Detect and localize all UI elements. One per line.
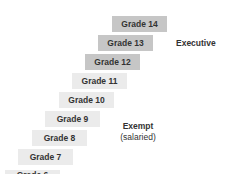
exempt-band-sublabel: (salaried)	[116, 132, 160, 142]
grade-box-14: Grade 14	[112, 16, 167, 32]
grade-box-11: Grade 11	[72, 73, 127, 89]
grade-box-9: Grade 9	[45, 111, 100, 127]
grade-box-7: Grade 7	[18, 149, 73, 165]
grade-box-8: Grade 8	[32, 130, 87, 146]
grade-box-10: Grade 10	[59, 92, 114, 108]
exempt-band-label: Exempt	[120, 121, 156, 131]
grade-box-6-partial: Grade 6	[5, 170, 60, 174]
grade-box-13: Grade 13	[98, 35, 153, 51]
grade-box-12: Grade 12	[85, 54, 140, 70]
executive-band-label: Executive	[176, 38, 216, 48]
grade-box-6-label: Grade 6	[5, 170, 60, 174]
